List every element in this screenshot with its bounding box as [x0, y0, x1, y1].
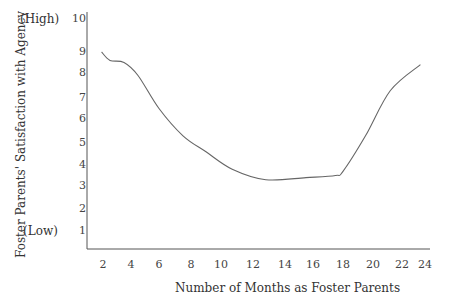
x-tick-16: 16 — [301, 259, 325, 271]
y-tick-8: 8 — [56, 67, 86, 79]
y-axis-title: Foster Parents' Satisfaction with Agency — [14, 11, 28, 258]
x-tick-22: 22 — [390, 259, 414, 271]
y-low-annotation: (Low) — [23, 225, 58, 237]
x-tick-10: 10 — [209, 259, 233, 271]
y-tick-4: 4 — [56, 159, 86, 171]
x-tick-14: 14 — [273, 259, 297, 271]
line-chart: 12345678910 24681012141618202224 (High) … — [0, 0, 456, 308]
y-tick-5: 5 — [56, 137, 86, 149]
x-tick-18: 18 — [331, 259, 355, 271]
y-tick-6: 6 — [56, 113, 86, 125]
x-axis-title: Number of Months as Foster Parents — [175, 281, 400, 295]
x-tick-6: 6 — [147, 259, 171, 271]
y-tick-10: 10 — [56, 13, 86, 25]
x-tick-24: 24 — [413, 259, 437, 271]
x-tick-8: 8 — [179, 259, 203, 271]
x-tick-2: 2 — [91, 259, 115, 271]
y-tick-1: 1 — [56, 225, 86, 237]
y-tick-2: 2 — [56, 203, 86, 215]
satisfaction-curve — [102, 52, 421, 180]
x-tick-4: 4 — [119, 259, 143, 271]
y-tick-3: 3 — [56, 180, 86, 192]
y-tick-7: 7 — [56, 92, 86, 104]
x-tick-12: 12 — [241, 259, 265, 271]
y-tick-9: 9 — [56, 46, 86, 58]
x-tick-20: 20 — [361, 259, 385, 271]
